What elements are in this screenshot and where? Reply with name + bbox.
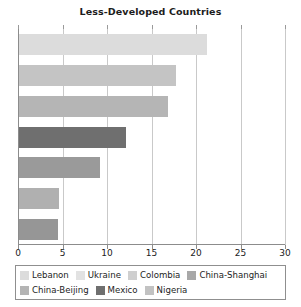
legend-swatch-icon <box>96 286 105 295</box>
x-tick-label: 5 <box>60 248 66 258</box>
legend-label: Colombia <box>140 271 180 280</box>
x-tick-top <box>196 25 197 29</box>
bar <box>18 219 58 240</box>
legend-label: Mexico <box>108 286 138 295</box>
gridline <box>285 29 286 245</box>
bars-layer <box>18 29 285 245</box>
legend-label: Nigeria <box>157 286 188 295</box>
legend-swatch-icon <box>128 271 137 280</box>
legend-item[interactable]: Ukraine <box>76 271 121 280</box>
x-tick-label: 20 <box>190 248 201 258</box>
legend-label: Lebanon <box>32 271 69 280</box>
legend-item[interactable]: China-Shanghai <box>187 271 267 280</box>
legend-item[interactable]: Lebanon <box>20 271 69 280</box>
legend-item[interactable]: Mexico <box>96 286 138 295</box>
legend-label: China-Shanghai <box>199 271 267 280</box>
bar <box>18 65 176 86</box>
legend: LebanonUkraineColombiaChina-Shanghai Chi… <box>15 265 286 300</box>
legend-row-2: China-BeijingMexicoNigeria <box>20 283 282 298</box>
x-tick-top <box>107 25 108 29</box>
legend-swatch-icon <box>145 286 154 295</box>
legend-swatch-icon <box>187 271 196 280</box>
bar <box>18 127 126 148</box>
x-tick-top <box>63 25 64 29</box>
x-tick-top <box>241 25 242 29</box>
legend-item[interactable]: Nigeria <box>145 286 188 295</box>
legend-label: China-Beijing <box>32 286 89 295</box>
x-tick-label: 30 <box>279 248 290 258</box>
plot-area <box>18 29 285 245</box>
bar <box>18 34 207 55</box>
bar <box>18 96 168 117</box>
x-tick-label: 0 <box>15 248 21 258</box>
legend-swatch-icon <box>20 271 29 280</box>
bar <box>18 188 59 209</box>
x-tick-label: 15 <box>146 248 157 258</box>
legend-swatch-icon <box>20 286 29 295</box>
legend-item[interactable]: Colombia <box>128 271 180 280</box>
chart-title: Less-Developed Countries <box>0 6 301 17</box>
bar-chart: Less-Developed Countries 051015202530 Le… <box>0 0 301 307</box>
y-axis-line <box>18 29 19 245</box>
x-axis-labels: 051015202530 <box>18 248 285 262</box>
x-tick-top <box>18 25 19 29</box>
legend-swatch-icon <box>76 271 85 280</box>
legend-row-1: LebanonUkraineColombiaChina-Shanghai <box>20 268 282 283</box>
x-tick-label: 10 <box>101 248 112 258</box>
legend-item[interactable]: China-Beijing <box>20 286 89 295</box>
x-tick-label: 25 <box>235 248 246 258</box>
x-tick-top <box>152 25 153 29</box>
legend-label: Ukraine <box>88 271 121 280</box>
x-tick-top <box>285 25 286 29</box>
bar <box>18 157 100 178</box>
